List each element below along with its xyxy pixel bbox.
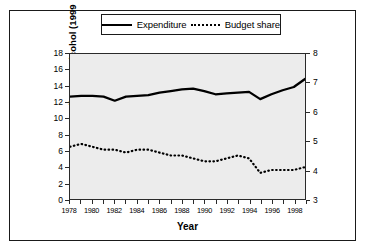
x-tick-mark [193, 200, 194, 204]
y-tick-label-left: 2 [41, 180, 63, 188]
x-axis-label: Year [69, 221, 306, 232]
y-tick-label-right: 8 [313, 49, 335, 57]
x-tick-mark [103, 200, 104, 204]
x-tick-mark [261, 200, 262, 204]
y-tick-label-right: 4 [313, 167, 335, 175]
y-tick-mark-right [306, 82, 310, 83]
x-tick-mark [250, 200, 251, 204]
y-tick-label-right: 6 [313, 108, 335, 116]
x-tick-mark [125, 200, 126, 204]
y-tick-label-left: 4 [41, 163, 63, 171]
x-tick-mark [306, 200, 307, 204]
y-tick-label-right: 5 [313, 137, 335, 145]
x-tick-label: 1998 [280, 207, 310, 215]
y-tick-mark-right [306, 171, 310, 172]
y-tick-label-left: 6 [41, 147, 63, 155]
y-tick-label-left: 10 [41, 114, 63, 122]
x-tick-mark [137, 200, 138, 204]
y-tick-mark-right [306, 112, 310, 113]
x-tick-mark [148, 200, 149, 204]
y-tick-label-left: 8 [41, 131, 63, 139]
x-tick-mark [216, 200, 217, 204]
chart-legend: Expenditure Budget share [101, 14, 281, 35]
x-tick-mark [283, 200, 284, 204]
legend-swatch-expenditure [102, 24, 132, 26]
y-tick-label-right: 3 [313, 196, 335, 204]
plot-area [69, 53, 306, 200]
chart-figure: Expenditure Budget share Expenditure on … [9, 10, 356, 241]
x-tick-mark [69, 200, 70, 204]
series-line-budget-share [70, 144, 305, 173]
y-tick-label-left: 12 [41, 98, 63, 106]
chart-canvas [70, 54, 305, 199]
y-tick-label-left: 14 [41, 82, 63, 90]
x-tick-mark [238, 200, 239, 204]
x-tick-mark [114, 200, 115, 204]
x-tick-mark [182, 200, 183, 204]
y-tick-label-left: 18 [41, 49, 63, 57]
x-tick-mark [295, 200, 296, 204]
y-tick-label-left: 0 [41, 196, 63, 204]
legend-swatch-budget-share [191, 24, 219, 26]
y-tick-mark-right [306, 53, 310, 54]
y-tick-label-right: 7 [313, 78, 335, 86]
x-tick-mark [171, 200, 172, 204]
x-tick-mark [80, 200, 81, 204]
legend-label-budget-share: Budget share [225, 19, 280, 30]
y-tick-label-left: 16 [41, 65, 63, 73]
x-tick-mark [227, 200, 228, 204]
x-tick-mark [159, 200, 160, 204]
x-tick-mark [272, 200, 273, 204]
legend-label-expenditure: Expenditure [137, 19, 187, 30]
x-tick-mark [92, 200, 93, 204]
x-tick-mark [204, 200, 205, 204]
y-tick-mark-right [306, 141, 310, 142]
series-line-expenditure [70, 79, 305, 101]
